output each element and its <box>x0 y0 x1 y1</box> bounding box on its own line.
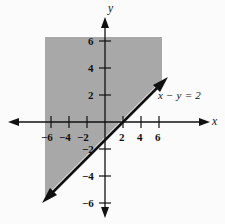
x-axis-arrow-left <box>8 118 19 126</box>
y-axis-label: y <box>108 3 113 15</box>
x-tick-label-neg6: −6 <box>41 132 53 143</box>
x-tick-label-neg4: −4 <box>59 132 71 143</box>
x-axis-label: x <box>212 116 217 128</box>
equation-label: x − y = 2 <box>158 90 201 101</box>
y-axis-arrow-down <box>101 207 109 218</box>
y-tick-label-neg6: −6 <box>82 198 94 209</box>
y-tick-label-4: 4 <box>88 63 94 74</box>
y-tick-label-neg2: −2 <box>82 144 94 155</box>
x-tick-label-6: 6 <box>155 132 161 143</box>
x-tick-label-neg2: −2 <box>77 132 89 143</box>
plot-canvas <box>0 0 225 224</box>
y-tick-label-2: 2 <box>88 90 94 101</box>
y-tick-label-6: 6 <box>88 36 94 47</box>
x-tick-label-4: 4 <box>137 132 143 143</box>
inequality-graph-figure: −6 −4 −2 2 4 6 6 4 2 −2 −4 −6 x y x − y … <box>0 0 225 224</box>
y-tick-label-neg4: −4 <box>82 171 94 182</box>
y-axis-arrow-up <box>101 17 109 28</box>
x-axis-arrow-right <box>199 118 210 126</box>
x-tick-label-2: 2 <box>119 132 125 143</box>
shaded-solution-region <box>45 37 162 197</box>
